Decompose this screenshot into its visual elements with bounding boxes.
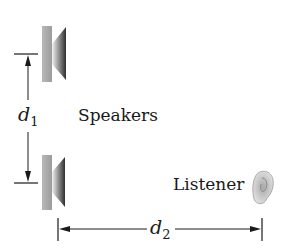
d1-label: d1 bbox=[18, 103, 38, 129]
ear-icon bbox=[253, 171, 273, 203]
listener-label: Listener bbox=[173, 174, 245, 194]
d2-arrow-left-icon bbox=[59, 226, 70, 232]
speaker-bottom bbox=[42, 155, 65, 210]
d2-label: d2 bbox=[150, 216, 170, 242]
speakers-label: Speakers bbox=[78, 105, 158, 125]
speaker-top bbox=[42, 26, 66, 82]
speaker-top-cone-icon bbox=[52, 27, 66, 80]
d1-arrow-down-icon bbox=[25, 171, 31, 182]
speaker-top-box-icon bbox=[42, 26, 52, 82]
d1-arrow-up-icon bbox=[25, 55, 31, 66]
d2-arrow-right-icon bbox=[250, 226, 261, 232]
speakers-listener-diagram: d1 Speakers Listener d2 bbox=[0, 0, 290, 250]
speaker-bottom-cone-icon bbox=[52, 157, 65, 207]
speaker-bottom-box-icon bbox=[42, 155, 52, 210]
